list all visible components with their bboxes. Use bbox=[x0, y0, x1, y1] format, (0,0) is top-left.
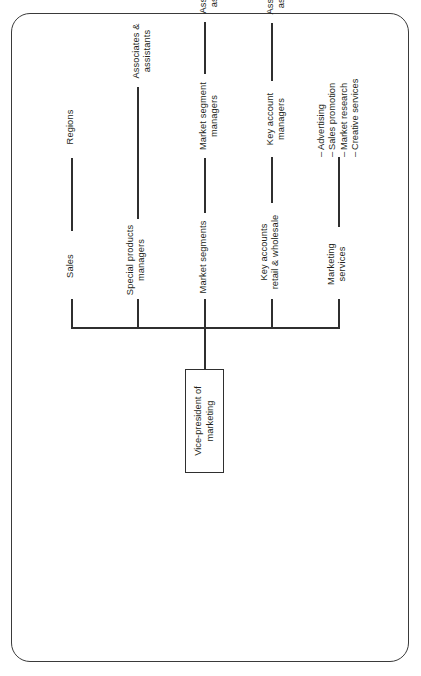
node-sales[interactable]: Sales bbox=[65, 233, 76, 299]
root-node-label: Vice-president of marketing bbox=[193, 386, 215, 456]
node-key-account-managers[interactable]: Key account managers bbox=[265, 81, 287, 157]
connector-key-accounts-to-managers bbox=[271, 157, 273, 203]
node-marketing-services[interactable]: Marketing services bbox=[326, 229, 348, 299]
list-item-label: Market research bbox=[338, 83, 348, 150]
connector-market-segment-managers-to-associates bbox=[204, 22, 206, 74]
node-special-products[interactable]: Special products managers bbox=[125, 221, 147, 299]
list-item-label: Sales promotion bbox=[327, 83, 337, 150]
list-item: –Market research bbox=[338, 79, 349, 157]
bullet-dash-icon: – bbox=[338, 150, 349, 157]
node-key-accounts[interactable]: Key accounts retail & wholesale bbox=[259, 205, 281, 299]
node-associates-market-segments[interactable]: Associates & assistants bbox=[198, 0, 220, 22]
connector-branch-market-segments bbox=[204, 299, 206, 329]
bullet-dash-icon: – bbox=[327, 150, 338, 157]
list-item: –Advertising bbox=[316, 79, 327, 157]
node-market-segments[interactable]: Market segments bbox=[198, 215, 209, 299]
page-canvas: Vice-president of marketing Sales Specia… bbox=[0, 0, 421, 676]
org-chart: Vice-president of marketing Sales Specia… bbox=[21, 28, 401, 648]
connector-sales-to-regions bbox=[71, 158, 73, 231]
connector-key-account-managers-to-associates bbox=[271, 23, 273, 81]
list-item: –Sales promotion bbox=[327, 79, 338, 157]
root-node-vice-president[interactable]: Vice-president of marketing bbox=[185, 369, 224, 473]
bullet-dash-icon: – bbox=[316, 150, 327, 157]
connector-branch-special-products bbox=[137, 299, 139, 329]
connector-special-products-to-associates bbox=[137, 87, 139, 219]
node-regions[interactable]: Regions bbox=[65, 96, 76, 158]
connector-branch-sales bbox=[71, 299, 73, 329]
list-item-label: Creative services bbox=[350, 79, 360, 150]
connector-branch-key-accounts bbox=[271, 299, 273, 329]
connector-marketing-services-to-list bbox=[338, 157, 340, 227]
marketing-services-detail-list: –Advertising –Sales promotion –Market re… bbox=[316, 79, 362, 157]
node-associates-special-products[interactable]: Associates & assistants bbox=[131, 15, 153, 87]
connector-market-segments-to-managers bbox=[204, 158, 206, 213]
bullet-dash-icon: – bbox=[350, 150, 361, 157]
list-item: –Creative services bbox=[350, 79, 361, 157]
node-associates-key-accounts[interactable]: Associates & assistants bbox=[265, 0, 287, 23]
connector-branch-marketing-services bbox=[338, 299, 340, 329]
connector-root-stem bbox=[204, 328, 206, 369]
list-item-label: Advertising bbox=[316, 104, 326, 150]
node-market-segment-managers[interactable]: Market segment managers bbox=[198, 74, 220, 158]
